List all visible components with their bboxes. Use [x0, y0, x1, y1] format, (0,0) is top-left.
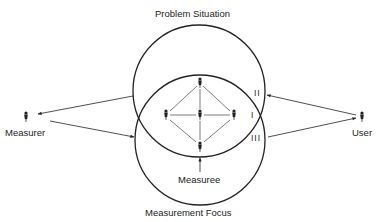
arrow-situation-to-measurer [38, 96, 133, 114]
diagram-graphic [0, 0, 387, 222]
problem-situation-circle [133, 25, 265, 157]
problem-situation-label: Problem Situation [155, 8, 230, 19]
measuree-label: Measuree [178, 174, 220, 185]
arrow-measurer-to-focus [50, 121, 134, 137]
region-iii-label: III [251, 133, 261, 143]
diagram-canvas: Problem Situation Measurement Focus Meas… [0, 0, 387, 222]
region-i-label: I [251, 110, 254, 120]
measurer-label: Measurer [5, 127, 45, 138]
measurement-focus-label: Measurement Focus [145, 207, 232, 218]
person-icon [198, 77, 202, 88]
user-person-icon [360, 111, 364, 122]
person-icon [198, 141, 202, 152]
measurer-person-icon [24, 111, 28, 122]
user-label: User [352, 127, 372, 138]
arrow-user-to-situation [267, 95, 356, 115]
person-icon [232, 109, 236, 120]
arrow-focus-to-user [268, 118, 356, 137]
person-icon [198, 109, 202, 120]
region-ii-label: II [254, 88, 261, 98]
person-icon [164, 109, 168, 120]
